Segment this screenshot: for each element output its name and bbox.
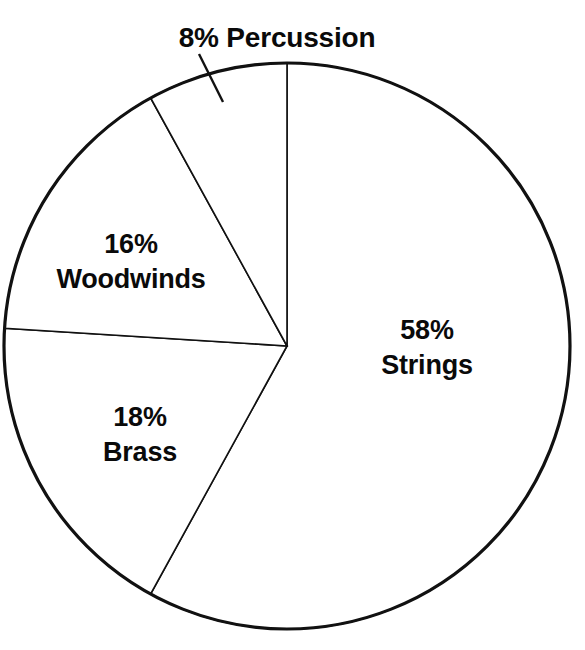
percussion-label-text: 8% Percussion <box>179 22 376 53</box>
slice-label-percussion: 8% Percussion <box>179 21 376 55</box>
strings-percent-text: 58% <box>381 313 473 348</box>
pie-chart-figure: 8% Percussion 58% Strings 16% Woodwinds … <box>0 0 585 650</box>
slice-label-woodwinds: 16% Woodwinds <box>56 227 205 296</box>
woodwinds-name-text: Woodwinds <box>56 262 205 297</box>
slice-label-strings: 58% Strings <box>381 313 473 382</box>
pie-slices-group <box>4 63 570 629</box>
strings-name-text: Strings <box>381 348 473 383</box>
brass-name-text: Brass <box>103 435 177 470</box>
woodwinds-percent-text: 16% <box>56 227 205 262</box>
slice-label-brass: 18% Brass <box>103 400 177 469</box>
pie-chart-canvas <box>0 0 585 650</box>
brass-percent-text: 18% <box>103 400 177 435</box>
